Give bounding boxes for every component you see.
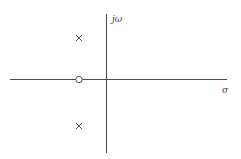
real-axis-label: σ: [222, 85, 229, 95]
pole-upper: [76, 35, 82, 41]
pole-zero-plot: jω σ: [0, 0, 241, 159]
imaginary-axis-label: jω: [110, 14, 123, 24]
pole-lower: [76, 123, 82, 129]
zero-marker: [76, 76, 82, 82]
